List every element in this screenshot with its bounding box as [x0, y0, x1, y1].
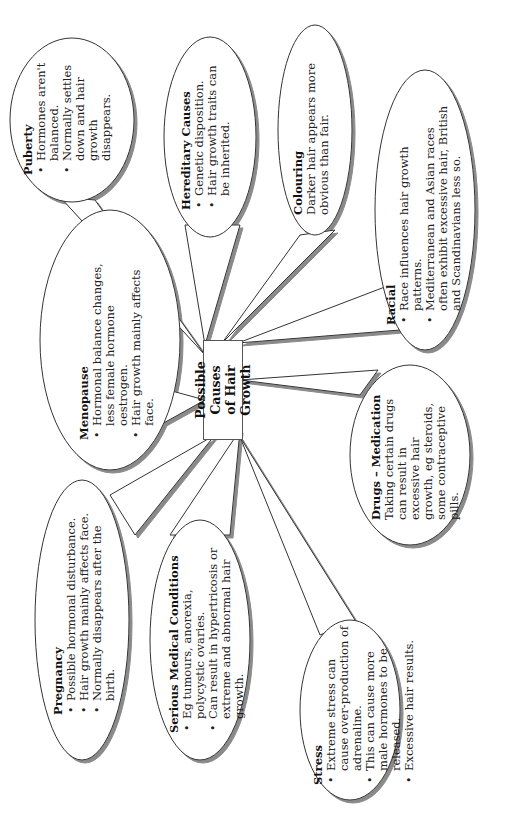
bubble-puberty: Puberty Hormones aren't balanced. Normal…: [22, 55, 113, 175]
bubble-menopause: Menopause Hormonal balance changes, less…: [78, 240, 156, 440]
bubble-serious-medical: Serious Medical Conditions Eg tumours, a…: [168, 543, 246, 733]
bubble-colouring: Colouring Darker hair appears more obvio…: [292, 35, 331, 215]
central-topic-line1: Possible Causes: [193, 341, 223, 439]
mind-map: Puberty Hormones aren't balanced. Normal…: [0, 0, 509, 825]
bubble-pregnancy: Pregnancy Possible hormonal disturbance.…: [52, 510, 117, 715]
bubble-body: Darker hair appears more obvious than fa…: [305, 35, 331, 215]
central-topic-line2: of Hair Growth: [223, 341, 253, 439]
bullet-item: Extreme stress can cause over-production…: [325, 625, 364, 771]
bullet-item: Excessive hair results.: [403, 625, 416, 771]
bubble-hereditary: Hereditary Causes Genetic disposition. H…: [180, 50, 232, 210]
bullet-item: Can result in hypertricosis or extreme a…: [207, 543, 246, 719]
bullet-item: Race influences hair growth patterns.: [398, 95, 424, 311]
bullet-item: Hormonal balance changes, less female ho…: [91, 240, 130, 426]
bullet-item: Normally disappears after the birth.: [91, 510, 117, 701]
bullet-item: This can cause more male hormones to be …: [364, 625, 403, 771]
bubble-body: Taking certain drugs can result in exces…: [383, 390, 461, 520]
bullet-item: Eg tumours, anorexia, polycystic ovaries…: [181, 543, 207, 719]
bullet-item: Normally settles down and hair growth di…: [61, 55, 113, 161]
bullet-item: Hormones aren't balanced.: [35, 55, 61, 161]
bubble-racial: Racial Race influences hair growth patte…: [385, 95, 463, 325]
bullet-item: Mediterranean and Asian races often exhi…: [424, 95, 463, 311]
bullet-item: Hair growth mainly affects face.: [130, 240, 156, 426]
bubble-drugs: Drugs – Medication Taking certain drugs …: [370, 390, 461, 520]
bubble-stress: Stress Extreme stress can cause over-pro…: [312, 625, 416, 785]
bullet-item: Hair growth traits can be inherited.: [206, 50, 232, 196]
central-topic-box: Possible Causes of Hair Growth: [203, 340, 243, 440]
